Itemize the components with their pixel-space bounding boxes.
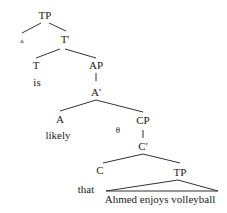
node-a-bar: A' xyxy=(91,86,101,98)
node-c-head: C xyxy=(96,164,103,176)
node-cp: CP xyxy=(136,114,149,126)
node-c-bar: C' xyxy=(138,140,147,152)
node-t-bar: T' xyxy=(61,33,70,45)
node-a-head: A xyxy=(56,113,64,125)
node-tp-embedded: TP xyxy=(174,166,187,178)
node-ap: AP xyxy=(89,59,103,71)
word-that: that xyxy=(78,183,95,195)
embedded-clause-words: Ahmed enjoys volleyball xyxy=(105,193,216,205)
node-t-head: T xyxy=(33,59,40,71)
syntax-tree-diagram: TP ▲ T' T is AP A' A likely θ CP C' C th… xyxy=(0,0,227,213)
node-tp-root: TP xyxy=(39,9,52,21)
word-is: is xyxy=(33,76,40,88)
word-likely: likely xyxy=(45,129,70,141)
theta-marker: θ xyxy=(116,124,120,136)
empty-spec-triangle-icon: ▲ xyxy=(19,35,26,47)
tree-branches xyxy=(0,0,227,213)
